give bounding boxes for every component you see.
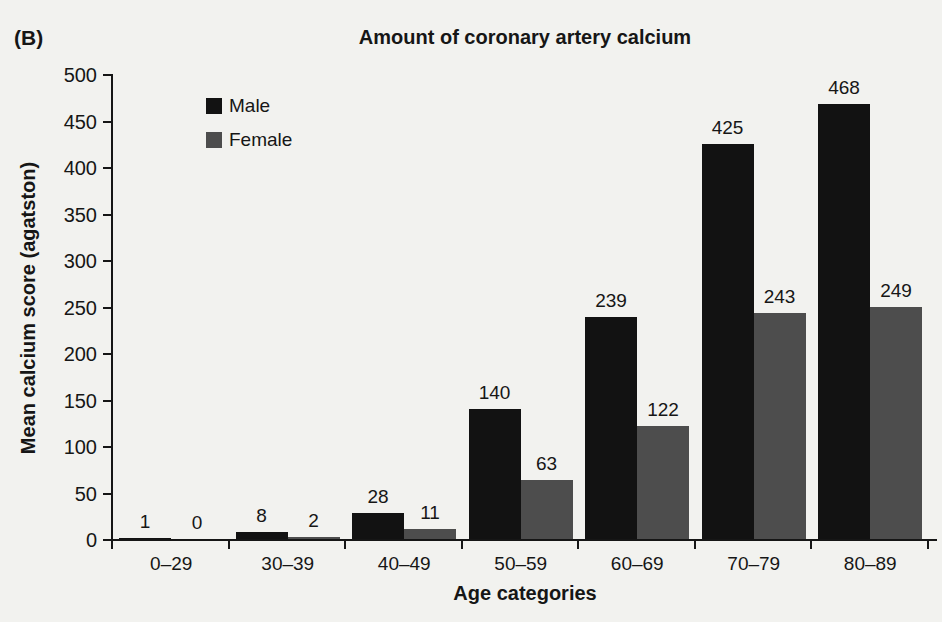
- y-tick: [103, 167, 111, 169]
- bar-female-30-39: [288, 537, 340, 539]
- bar-male-50-59: [469, 409, 521, 539]
- y-tick-label: 450: [37, 111, 97, 133]
- y-tick-label: 400: [37, 157, 97, 179]
- x-tick: [111, 541, 113, 549]
- x-tick: [344, 541, 346, 549]
- x-category-label-70-79: 70–79: [696, 553, 813, 574]
- x-category-label-60-69: 60–69: [579, 553, 696, 574]
- bar-value-label-female-80-89: 249: [860, 280, 932, 301]
- x-category-label-0-29: 0–29: [113, 553, 230, 574]
- x-category-label-40-49: 40–49: [346, 553, 463, 574]
- bar-value-label-female-60-69: 122: [627, 399, 699, 420]
- y-tick-label: 200: [37, 343, 97, 365]
- bar-female-60-69: [637, 426, 689, 539]
- bar-male-60-69: [585, 317, 637, 539]
- x-tick: [228, 541, 230, 549]
- y-tick-label: 100: [37, 436, 97, 458]
- bar-male-80-89: [818, 104, 870, 539]
- bar-value-label-male-50-59: 140: [459, 382, 531, 403]
- legend-swatch-female: [206, 132, 222, 148]
- bar-female-70-79: [754, 313, 806, 539]
- y-tick: [103, 446, 111, 448]
- y-tick: [103, 214, 111, 216]
- bar-chart-figure: (B) Amount of coronary artery calcium Me…: [0, 0, 942, 622]
- bar-value-label-male-70-79: 425: [692, 117, 764, 138]
- x-category-label-50-59: 50–59: [463, 553, 580, 574]
- y-tick: [103, 493, 111, 495]
- bar-value-label-male-80-89: 468: [808, 77, 880, 98]
- bar-male-0-29: [119, 538, 171, 539]
- x-axis-line: [111, 539, 937, 541]
- y-tick: [103, 260, 111, 262]
- y-tick-label: 350: [37, 204, 97, 226]
- bar-female-40-49: [404, 529, 456, 539]
- plot-area: 050100150200250300350400450500100–298230…: [0, 0, 942, 622]
- y-tick: [103, 353, 111, 355]
- bar-value-label-male-60-69: 239: [575, 290, 647, 311]
- y-tick: [103, 539, 111, 541]
- legend-item-male: Male: [206, 95, 292, 117]
- bar-male-30-39: [236, 532, 288, 539]
- y-tick: [103, 121, 111, 123]
- y-tick-label: 150: [37, 390, 97, 412]
- x-tick: [694, 541, 696, 549]
- bar-value-label-female-40-49: 11: [394, 502, 466, 523]
- legend: MaleFemale: [206, 95, 292, 163]
- bar-value-label-female-0-29: 0: [161, 512, 233, 533]
- x-category-label-30-39: 30–39: [230, 553, 347, 574]
- legend-label-male: Male: [229, 95, 270, 117]
- y-tick: [103, 307, 111, 309]
- bar-female-80-89: [870, 307, 922, 539]
- y-tick: [103, 74, 111, 76]
- x-category-label-80-89: 80–89: [812, 553, 929, 574]
- legend-swatch-male: [206, 98, 222, 114]
- x-tick: [927, 541, 929, 549]
- bar-female-50-59: [521, 480, 573, 539]
- x-tick: [810, 541, 812, 549]
- legend-label-female: Female: [229, 129, 292, 151]
- x-axis-title: Age categories: [113, 582, 937, 605]
- y-tick-label: 500: [37, 64, 97, 86]
- x-tick: [577, 541, 579, 549]
- y-tick-label: 50: [37, 483, 97, 505]
- y-tick: [103, 400, 111, 402]
- y-tick-label: 250: [37, 297, 97, 319]
- bar-value-label-female-30-39: 2: [278, 510, 350, 531]
- bar-value-label-female-50-59: 63: [511, 453, 583, 474]
- legend-item-female: Female: [206, 129, 292, 151]
- bar-male-70-79: [702, 144, 754, 539]
- y-tick-label: 300: [37, 250, 97, 272]
- x-tick: [461, 541, 463, 549]
- y-axis-line: [111, 74, 113, 541]
- bar-value-label-female-70-79: 243: [744, 286, 816, 307]
- y-tick-label: 0: [37, 529, 97, 551]
